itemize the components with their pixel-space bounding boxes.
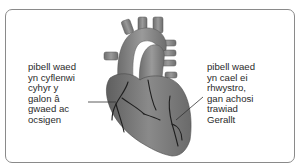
label-blocked-vessel: pibell waed yn cael ei rhwystro, gan ach…: [207, 62, 255, 126]
label-supplying-vessel: pibell waed yn cyflenwi cyhyr y galon â …: [28, 62, 76, 126]
